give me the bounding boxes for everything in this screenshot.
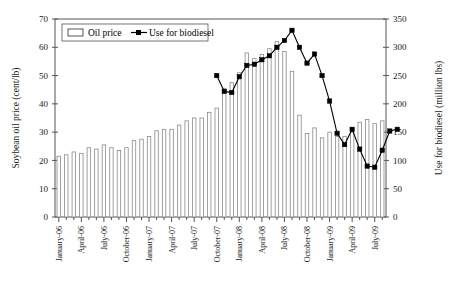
bar-oil-price (185, 121, 188, 217)
bar-oil-price (110, 148, 113, 217)
bar-oil-price (298, 115, 301, 217)
bar-oil-price (200, 118, 203, 217)
y2-tick-label: 250 (393, 71, 407, 81)
legend-swatch-bar-icon (68, 29, 83, 36)
bar-oil-price (381, 121, 384, 217)
biodiesel-data-marker (290, 28, 294, 32)
y-tick-label: 10 (39, 184, 49, 194)
x-tick-label: October-08 (303, 226, 312, 262)
y2-tick-label: 0 (393, 212, 398, 222)
biodiesel-data-marker (365, 164, 369, 168)
biodiesel-data-marker (260, 58, 264, 62)
biodiesel-data-marker (275, 45, 279, 49)
biodiesel-data-marker (245, 63, 249, 67)
bar-oil-price (305, 134, 308, 217)
biodiesel-data-marker (373, 165, 377, 169)
chart-legend: Oil price Use for biodiesel (62, 24, 214, 41)
biodiesel-data-marker (305, 61, 309, 65)
y-tick-label: 20 (39, 156, 49, 166)
biodiesel-data-marker (342, 142, 346, 146)
legend-label-use-for-biodiesel: Use for biodiesel (149, 28, 214, 38)
chart-figure: Soybean oil price (cent/lb) Use for biod… (0, 0, 459, 285)
bar-oil-price (268, 49, 271, 217)
biodiesel-data-marker (395, 127, 399, 131)
bar-oil-price (102, 145, 105, 217)
y-tick-label: 60 (39, 42, 49, 52)
bar-oil-price (343, 136, 346, 217)
bar-oil-price (140, 139, 143, 217)
bar-oil-price (125, 148, 128, 217)
x-tick-label: July-07 (190, 226, 199, 250)
x-tick-label: July-09 (371, 226, 380, 250)
bar-oil-price (238, 73, 241, 217)
x-tick-label: April-08 (258, 226, 267, 254)
bar-oil-price (87, 148, 90, 217)
bar-oil-price (117, 151, 120, 217)
bar-oil-price (358, 122, 361, 217)
bar-oil-price (192, 118, 195, 217)
legend-label-oil-price: Oil price (88, 28, 122, 38)
biodiesel-data-marker (282, 38, 286, 42)
bar-oil-price (95, 149, 98, 217)
bar-oil-price (253, 59, 256, 217)
x-tick-label: October-06 (122, 226, 131, 262)
bar-oil-price (155, 131, 158, 217)
x-tick-label: July-06 (100, 226, 109, 250)
biodiesel-data-marker (297, 45, 301, 49)
biodiesel-data-marker (350, 127, 354, 131)
biodiesel-data-marker (335, 131, 339, 135)
bar-oil-price (335, 136, 338, 217)
bar-oil-price (350, 132, 353, 217)
bar-oil-price (65, 155, 68, 217)
bar-oil-price (290, 71, 293, 217)
y-tick-label: 30 (39, 127, 49, 137)
bar-oil-price (215, 108, 218, 217)
y-axis-label: Soybean oil price (cent/lb) (11, 67, 22, 168)
x-tick-label: January-07 (145, 226, 154, 262)
x-tick-label: July-08 (280, 226, 289, 250)
biodiesel-data-marker (215, 73, 219, 77)
y2-tick-label: 50 (393, 184, 403, 194)
x-tick-label: April-07 (168, 226, 177, 254)
bar-oil-price (80, 153, 83, 217)
y-tick-label: 70 (39, 14, 49, 24)
biodiesel-data-marker (388, 129, 392, 133)
bar-oil-price (162, 129, 165, 217)
y2-tick-label: 300 (393, 42, 407, 52)
bar-oil-price (147, 136, 150, 217)
bar-oil-price (207, 112, 210, 217)
x-tick-label: April-06 (77, 226, 86, 254)
bar-oil-price (230, 83, 233, 217)
biodiesel-data-marker (320, 73, 324, 77)
biodiesel-data-marker (380, 148, 384, 152)
y-tick-label: 40 (39, 99, 49, 109)
biodiesel-data-marker (327, 99, 331, 103)
y2-tick-label: 350 (393, 14, 407, 24)
y2-tick-label: 200 (393, 99, 407, 109)
y2-axis-label: Use for biodiesel (million lbs) (434, 61, 445, 176)
legend-square-marker-icon (136, 30, 141, 35)
y-axis-label-group: Soybean oil price (cent/lb) (11, 67, 22, 168)
bar-oil-price (283, 52, 286, 217)
chart-background (0, 0, 459, 285)
y-tick-label: 50 (39, 71, 49, 81)
bar-oil-price (177, 125, 180, 217)
biodiesel-data-marker (252, 62, 256, 66)
biodiesel-data-marker (267, 54, 271, 58)
bar-oil-price (373, 124, 376, 217)
x-tick-label: April-09 (348, 226, 357, 254)
bar-oil-price (57, 156, 60, 217)
biodiesel-data-marker (357, 147, 361, 151)
bar-oil-price (313, 128, 316, 217)
bar-oil-price (328, 132, 331, 217)
y2-axis-label-group: Use for biodiesel (million lbs) (434, 61, 445, 176)
biodiesel-data-marker (230, 90, 234, 94)
bar-oil-price (275, 42, 278, 217)
soybean-oil-price-biodiesel-chart: Soybean oil price (cent/lb) Use for biod… (0, 0, 459, 285)
x-tick-label: January-09 (326, 226, 335, 262)
bar-oil-price (132, 141, 135, 217)
bar-oil-price (320, 138, 323, 217)
y-tick-label: 0 (44, 212, 49, 222)
x-tick-label: January-06 (55, 226, 64, 262)
bar-oil-price (223, 88, 226, 217)
